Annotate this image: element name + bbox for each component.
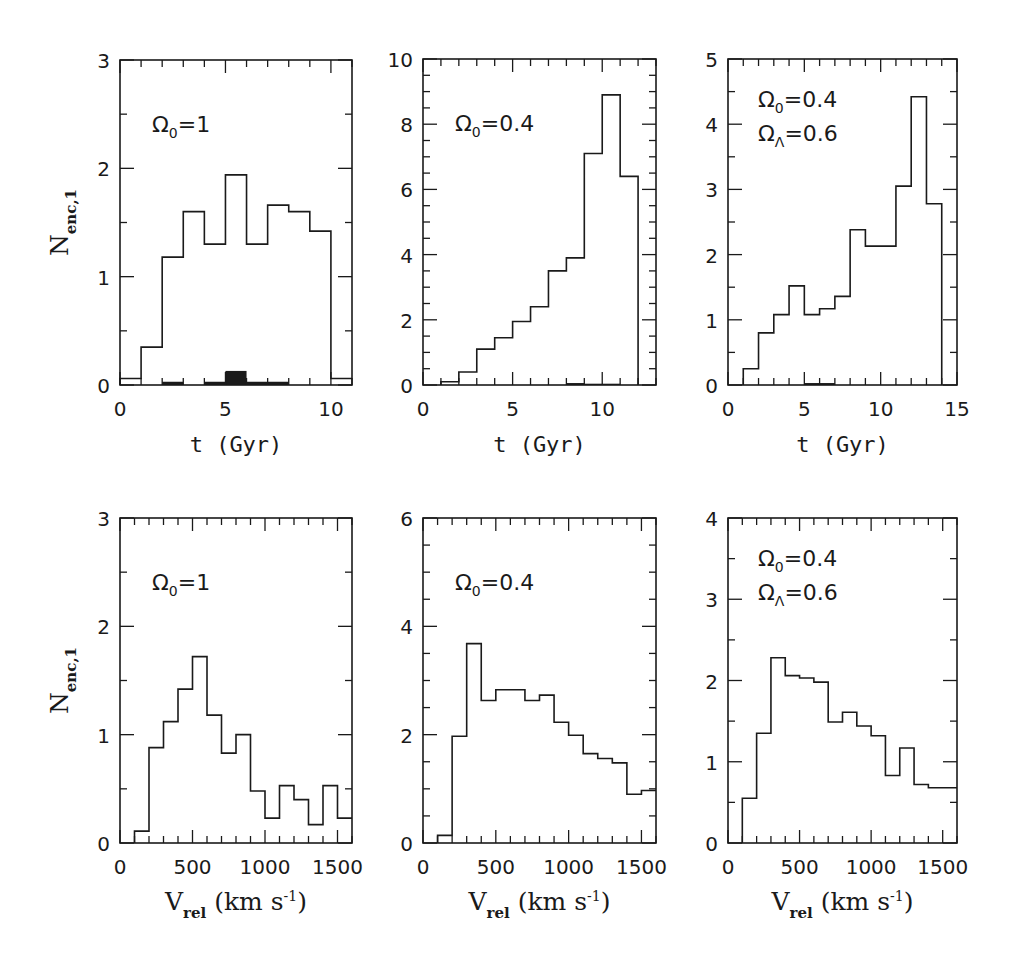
x-tick-label: 1500 (312, 855, 363, 879)
x-tick-label: 0 (722, 855, 735, 879)
y-tick-label: 0 (97, 832, 110, 856)
y-tick-label: 4 (705, 507, 718, 531)
y-tick-label: 10 (388, 48, 413, 72)
x-tick-label: 15 (944, 397, 969, 421)
y-tick-label: 5 (705, 48, 718, 72)
x-tick-label: 0 (722, 397, 735, 421)
x-tick-label: 500 (477, 855, 515, 879)
omega-annotation: ΩΛ=0.6 (758, 121, 838, 150)
x-axis-label: t (Gyr) (190, 432, 283, 457)
y-tick-label: 4 (400, 244, 413, 268)
y-tick-label: 1 (97, 724, 110, 748)
omega-annotation: Ω0=0.4 (758, 87, 837, 116)
omega-annotation: Ω0=1 (152, 570, 210, 599)
omega-annotation: Ω0=1 (152, 112, 210, 141)
y-tick-label: 3 (705, 178, 718, 202)
x-tick-label: 1000 (846, 855, 897, 879)
y-tick-label: 0 (705, 374, 718, 398)
x-tick-label: 10 (318, 397, 343, 421)
y-tick-label: 3 (97, 49, 110, 73)
x-tick-label: 0 (114, 855, 127, 879)
y-tick-label: 6 (400, 178, 413, 202)
y-tick-label: 0 (400, 374, 413, 398)
x-tick-label: 5 (798, 397, 811, 421)
y-tick-label: 2 (97, 157, 110, 181)
y-tick-label: 4 (705, 113, 718, 137)
omega-annotation: Ω0=0.4 (455, 570, 534, 599)
y-tick-label: 2 (400, 309, 413, 333)
x-tick-label: 5 (219, 397, 232, 421)
omega-annotation: Ω0=0.4 (758, 546, 837, 575)
x-tick-label: 5 (506, 397, 519, 421)
x-tick-label: 500 (173, 855, 211, 879)
x-axis-label: t (Gyr) (493, 432, 586, 457)
y-tick-label: 1 (705, 751, 718, 775)
y-tick-label: 2 (705, 244, 718, 268)
x-tick-label: 0 (114, 397, 127, 421)
x-tick-label: 10 (590, 397, 615, 421)
y-tick-label: 0 (97, 374, 110, 398)
y-tick-label: 2 (97, 615, 110, 639)
y-tick-label: 0 (705, 832, 718, 856)
x-tick-label: 1500 (917, 855, 968, 879)
filled-bar (225, 371, 246, 385)
x-tick-label: 500 (780, 855, 818, 879)
y-tick-label: 3 (705, 588, 718, 612)
x-tick-label: 1000 (543, 855, 594, 879)
x-tick-label: 0 (417, 855, 430, 879)
figure: 05100123Ω0=1t (Gyr)Nenc,1 05100246810Ω0=… (0, 0, 1017, 961)
x-tick-label: 1000 (240, 855, 291, 879)
y-tick-label: 2 (400, 724, 413, 748)
y-tick-label: 8 (400, 113, 413, 137)
x-tick-label: 10 (868, 397, 893, 421)
x-tick-label: 1500 (616, 855, 667, 879)
omega-annotation: Ω0=0.4 (455, 111, 534, 140)
y-tick-label: 0 (400, 832, 413, 856)
omega-annotation: ΩΛ=0.6 (758, 580, 838, 609)
y-tick-label: 4 (400, 615, 413, 639)
y-tick-label: 2 (705, 670, 718, 694)
y-tick-label: 1 (705, 309, 718, 333)
x-tick-label: 0 (417, 397, 430, 421)
y-tick-label: 3 (97, 507, 110, 531)
x-axis-label: t (Gyr) (796, 432, 889, 457)
y-tick-label: 1 (97, 266, 110, 290)
y-tick-label: 6 (400, 507, 413, 531)
